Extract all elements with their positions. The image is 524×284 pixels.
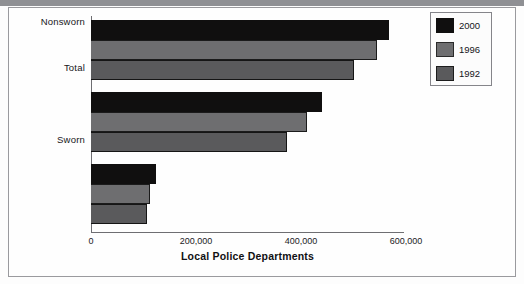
legend-label-1992: 1992 xyxy=(459,68,480,79)
bar-total-1992[interactable] xyxy=(91,60,354,80)
legend-label-2000: 2000 xyxy=(459,20,480,31)
bar-total-2000[interactable] xyxy=(91,20,389,40)
bar-sworn-1992[interactable] xyxy=(91,132,287,152)
plot-area xyxy=(91,16,403,232)
scan-artifact-band xyxy=(0,0,524,6)
bar-nonsworn-2000[interactable] xyxy=(91,164,156,184)
legend-swatch-icon-1996 xyxy=(436,42,454,57)
bar-total-1996[interactable] xyxy=(91,40,377,60)
x-axis-line xyxy=(91,232,404,233)
legend-item-1996[interactable]: 1996 xyxy=(436,40,480,58)
bar-nonsworn-1996[interactable] xyxy=(91,184,150,204)
legend-label-1996: 1996 xyxy=(459,44,480,55)
category-label-total: Total xyxy=(5,62,85,73)
legend-swatch-icon-1992 xyxy=(436,66,454,81)
category-label-nonsworn: Nonsworn xyxy=(5,16,85,27)
y-axis-category-labels: Total Sworn Nonsworn xyxy=(0,16,85,232)
x-tick-label-400000: 400,000 xyxy=(285,236,318,246)
x-axis-title: Local Police Departments xyxy=(91,250,404,262)
legend-swatch-icon-2000 xyxy=(436,18,454,33)
bar-sworn-2000[interactable] xyxy=(91,92,322,112)
chart-legend: 2000 1996 1992 xyxy=(430,12,492,86)
x-tick-label-0: 0 xyxy=(88,236,93,246)
chart-figure: Total Sworn Nonsworn 0 200,000 400,000 6… xyxy=(0,0,524,284)
x-tick-label-600000: 600,000 xyxy=(390,236,423,246)
legend-item-2000[interactable]: 2000 xyxy=(436,16,480,34)
bar-sworn-1996[interactable] xyxy=(91,112,307,132)
bar-nonsworn-1992[interactable] xyxy=(91,204,147,224)
x-tick-label-200000: 200,000 xyxy=(180,236,213,246)
legend-item-1992[interactable]: 1992 xyxy=(436,64,480,82)
category-label-sworn: Sworn xyxy=(5,134,85,145)
